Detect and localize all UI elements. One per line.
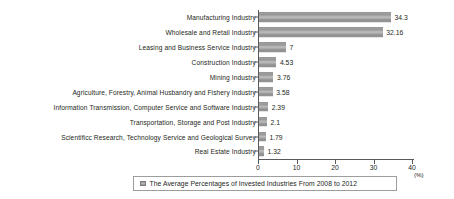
x-axis-tick-label: 30 xyxy=(370,164,378,171)
x-axis-tick-mark xyxy=(297,160,298,164)
chart-legend: The Average Percentages of Invested Indu… xyxy=(133,176,397,191)
x-axis-tick-label: 20 xyxy=(331,164,339,171)
x-axis-tick-mark xyxy=(374,160,375,164)
plot-area: Manufacturing Industry34.3Wholesale and … xyxy=(0,0,454,170)
x-axis-tick-label: 0 xyxy=(256,164,260,171)
x-axis-tick-mark xyxy=(335,160,336,164)
x-axis-tick-label: 40 xyxy=(408,164,416,171)
x-axis-unit-label: (%) xyxy=(414,171,424,178)
x-axis-tick-label: 10 xyxy=(293,164,301,171)
x-axis-tick-mark xyxy=(412,160,413,164)
legend-label: The Average Percentages of Invested Indu… xyxy=(150,180,357,187)
x-axis-tick-mark xyxy=(258,160,259,164)
x-axis-ticks: 010203040 xyxy=(0,0,454,170)
legend-swatch-icon xyxy=(140,181,146,187)
bar-chart: Manufacturing Industry34.3Wholesale and … xyxy=(0,0,454,199)
